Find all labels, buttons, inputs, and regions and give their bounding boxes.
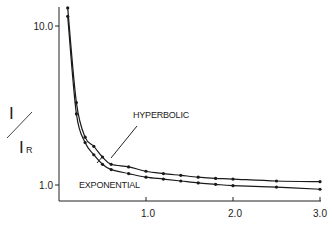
data-point (179, 179, 182, 182)
data-point (75, 112, 78, 115)
decay-curve-chart: 10.0 1.0 1.0 2.0 3.0 I I R HYPERBOLIC EX… (0, 0, 332, 242)
data-point (162, 172, 165, 175)
y-label-denominator: I (19, 138, 24, 157)
annotation-exponential: EXPONENTIAL (79, 156, 140, 190)
data-point (101, 163, 104, 166)
hyperbolic-leader (111, 126, 137, 158)
data-point (318, 188, 321, 191)
data-point (214, 177, 217, 180)
series-line (68, 16, 320, 189)
data-point (66, 15, 69, 18)
annotation-hyperbolic: HYPERBOLIC (111, 110, 190, 158)
data-point (179, 174, 182, 177)
series-exponential (66, 15, 322, 191)
data-point (231, 184, 234, 187)
y-tick-label-10: 10.0 (34, 21, 54, 32)
data-point (127, 172, 130, 175)
y-axis-label: I I R (7, 104, 33, 157)
data-point (231, 177, 234, 180)
data-point (84, 141, 87, 144)
x-tick-label-1: 1.0 (141, 208, 155, 219)
x-tick-label-2: 2.0 (228, 208, 242, 219)
data-point (110, 168, 113, 171)
hyperbolic-label: HYPERBOLIC (133, 110, 190, 120)
data-point (92, 145, 95, 148)
y-label-numerator: I (9, 104, 14, 123)
data-point (127, 165, 130, 168)
series-hyperbolic (66, 6, 322, 183)
data-point (162, 177, 165, 180)
data-point (275, 179, 278, 182)
data-point (84, 136, 87, 139)
y-tick-label-1: 1.0 (39, 180, 53, 191)
exponential-label: EXPONENTIAL (79, 180, 140, 190)
data-point (92, 153, 95, 156)
data-point (318, 180, 321, 183)
data-point (144, 170, 147, 173)
data-point (275, 186, 278, 189)
data-point (144, 176, 147, 179)
data-point (197, 181, 200, 184)
data-point (110, 163, 113, 166)
data-point (197, 176, 200, 179)
data-point (214, 183, 217, 186)
data-point (66, 6, 69, 9)
y-label-subscript: R (26, 145, 33, 155)
x-tick-label-3: 3.0 (313, 208, 327, 219)
series-line (68, 8, 320, 182)
